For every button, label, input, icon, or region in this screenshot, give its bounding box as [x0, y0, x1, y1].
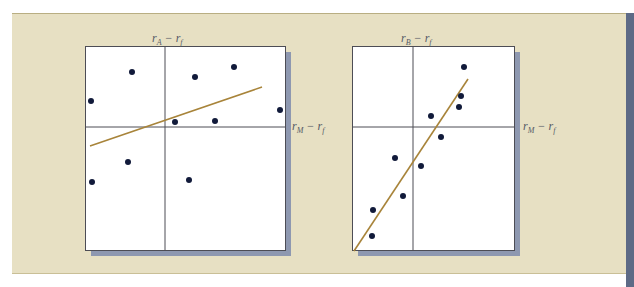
chart-b-regression-line — [354, 79, 468, 251]
chart-b-x-label: rM − rf — [523, 119, 555, 135]
chart-b-y-label: rB − rf — [401, 31, 432, 47]
chart-b-points — [369, 64, 467, 239]
chart-b-svg — [0, 0, 634, 287]
